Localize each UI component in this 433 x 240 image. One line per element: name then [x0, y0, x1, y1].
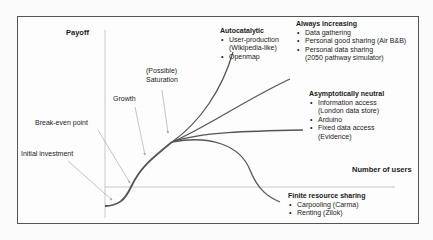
- initial-investment-label: Initial investment: [21, 150, 73, 159]
- increasing-title: Always increasing: [296, 20, 406, 29]
- list-item-cont: (London data store): [309, 107, 384, 116]
- base-curve: [105, 142, 172, 206]
- growth-arrow: [135, 107, 145, 155]
- neutral-group: Asymptotically neutral Information acces…: [309, 90, 384, 141]
- growth-label: Growth: [113, 95, 136, 104]
- finite-group: Finite resource sharing Carpooling (Carm…: [288, 192, 365, 218]
- list-item: Openmap: [220, 53, 279, 62]
- list-item: Data gathering: [296, 29, 406, 38]
- list-item: Personal data sharing: [296, 46, 406, 55]
- list-item-cont: (2050 pathway simulator): [296, 54, 406, 63]
- saturation-arrow: [162, 90, 168, 133]
- break-even-arrow: [98, 130, 130, 183]
- list-item: Personal good sharing (Air B&B): [296, 37, 406, 46]
- curves: [105, 52, 303, 206]
- list-item: Carpooling (Carma): [288, 201, 365, 210]
- list-item-cont: (Evidence): [309, 133, 384, 142]
- y-axis-label: Payoff: [66, 29, 89, 38]
- finite-curve: [172, 140, 280, 202]
- annotation-arrows: [68, 90, 168, 200]
- list-item: Arduino: [309, 116, 384, 125]
- autocatalytic-title: Autocatalytic: [220, 27, 279, 36]
- neutral-title: Asymptotically neutral: [309, 90, 384, 99]
- saturation-label: (Possible) Saturation: [146, 67, 178, 84]
- list-item-cont: (Wikipedia-like): [220, 44, 279, 53]
- list-item: Fixed data access: [309, 124, 384, 133]
- list-item: Renting (Zilok): [288, 209, 365, 218]
- x-axis-label: Number of users: [352, 166, 412, 175]
- break-even-label: Break-even point: [35, 119, 88, 128]
- finite-title: Finite resource sharing: [288, 192, 365, 201]
- increasing-group: Always increasing Data gathering Persona…: [296, 20, 406, 63]
- list-item: Information access: [309, 99, 384, 108]
- autocatalytic-group: Autocatalytic User-production (Wikipedia…: [220, 27, 279, 61]
- autocatalytic-curve: [172, 52, 233, 142]
- list-item: User-production: [220, 36, 279, 45]
